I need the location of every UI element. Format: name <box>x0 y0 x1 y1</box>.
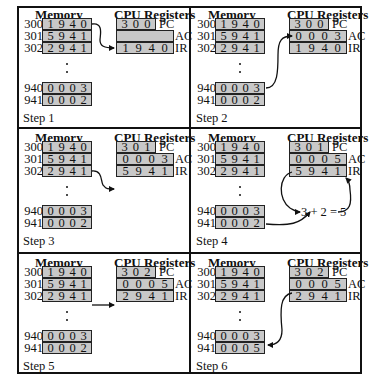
digit: 3 <box>333 31 342 41</box>
step-label: Step 3 <box>23 234 55 249</box>
memory-cell: 2941 <box>42 290 92 302</box>
step-panel-5: MemoryCPU Registers300194030159413022941… <box>17 255 189 377</box>
digit: 9 <box>230 279 239 289</box>
digit: 5 <box>294 166 303 176</box>
ir-register: 5941 <box>116 165 174 177</box>
digit: 0 <box>333 43 342 53</box>
step-panel-4: MemoryCPU Registers300194030159413022941… <box>190 130 362 252</box>
digit: 5 <box>219 31 228 41</box>
ellipsis-dot <box>66 319 68 321</box>
digit: 5 <box>333 279 342 289</box>
digit: 9 <box>230 267 239 277</box>
memory-address: 941 <box>194 217 216 229</box>
digit: 3 <box>293 19 302 29</box>
step-panel-3: MemoryCPU Registers300194030159413022941… <box>17 130 189 252</box>
digit: 0 <box>57 83 66 93</box>
digit: 0 <box>68 343 77 353</box>
digit: 3 <box>293 267 302 277</box>
digit: 9 <box>307 166 316 176</box>
digit: 4 <box>68 166 77 176</box>
memory-cell: 2941 <box>42 42 92 54</box>
digit: 0 <box>46 218 55 228</box>
digit: 0 <box>294 154 303 164</box>
ir-register: 5941 <box>289 165 347 177</box>
step-panel-2: MemoryCPU Registers300194030159413022941… <box>190 7 362 129</box>
digit: 0 <box>68 331 77 341</box>
digit: 0 <box>57 331 66 341</box>
memory-cell: 0002 <box>42 342 92 354</box>
memory-address: 941 <box>194 94 216 106</box>
digit: 4 <box>241 154 250 164</box>
ir-label: IR <box>348 165 361 177</box>
digit: 0 <box>252 142 261 152</box>
digit: 3 <box>252 331 261 341</box>
ellipsis-dot <box>66 63 68 65</box>
step-label: Step 4 <box>196 234 228 249</box>
digit: 4 <box>241 19 250 29</box>
digit: 0 <box>68 218 77 228</box>
digit: 3 <box>79 83 88 93</box>
step-label: Step 6 <box>196 359 228 374</box>
ir-label: IR <box>175 42 188 54</box>
digit: 1 <box>219 142 228 152</box>
digit: 1 <box>294 43 303 53</box>
digit: 9 <box>230 43 239 53</box>
digit: 2 <box>252 218 261 228</box>
memory-cell: 0002 <box>42 94 92 106</box>
ellipsis-dot <box>66 186 68 188</box>
memory-address: 302 <box>21 42 43 54</box>
digit: 0 <box>307 279 316 289</box>
digit: 0 <box>219 343 228 353</box>
digit: 2 <box>316 267 325 277</box>
digit: 0 <box>79 19 88 29</box>
memory-address: 302 <box>21 290 43 302</box>
memory-cell: 2941 <box>215 165 265 177</box>
digit: 1 <box>252 43 261 53</box>
digit: 0 <box>147 279 156 289</box>
step-panel-6: MemoryCPU Registers300194030159413022941… <box>190 255 362 377</box>
ir-register: 2941 <box>289 290 347 302</box>
memory-cell: 2941 <box>215 42 265 54</box>
digit: 0 <box>121 279 130 289</box>
digit: 0 <box>79 267 88 277</box>
digit: 0 <box>46 343 55 353</box>
digit: 0 <box>320 31 329 41</box>
digit: 9 <box>57 166 66 176</box>
digit: 2 <box>79 218 88 228</box>
digit: 1 <box>79 291 88 301</box>
digit: 4 <box>241 43 250 53</box>
memory-cell: 0002 <box>42 217 92 229</box>
digit: 3 <box>252 206 261 216</box>
ellipsis-dot <box>239 186 241 188</box>
digit: 9 <box>230 166 239 176</box>
digit: 3 <box>79 331 88 341</box>
digit: 0 <box>131 267 140 277</box>
digit: 0 <box>68 95 77 105</box>
digit: 3 <box>120 267 129 277</box>
digit: 9 <box>230 19 239 29</box>
digit: 4 <box>68 43 77 53</box>
digit: 2 <box>46 291 55 301</box>
memory-address: 941 <box>21 217 43 229</box>
digit: 4 <box>241 142 250 152</box>
digit: 0 <box>147 154 156 164</box>
digit: 1 <box>46 142 55 152</box>
digit: 3 <box>120 19 129 29</box>
digit: 9 <box>57 291 66 301</box>
digit: 5 <box>46 279 55 289</box>
memory-cell: 0005 <box>215 342 265 354</box>
digit: 0 <box>316 19 325 29</box>
digit: 5 <box>333 154 342 164</box>
digit: 2 <box>219 43 228 53</box>
digit: 0 <box>320 154 329 164</box>
digit: 4 <box>68 19 77 29</box>
digit: 0 <box>241 343 250 353</box>
step-label: Step 1 <box>23 111 55 126</box>
digit: 1 <box>252 31 261 41</box>
digit: 9 <box>57 267 66 277</box>
digit: 9 <box>134 166 143 176</box>
ellipsis-dot <box>239 63 241 65</box>
digit: 0 <box>57 206 66 216</box>
digit: 1 <box>46 267 55 277</box>
digit: 5 <box>160 279 169 289</box>
